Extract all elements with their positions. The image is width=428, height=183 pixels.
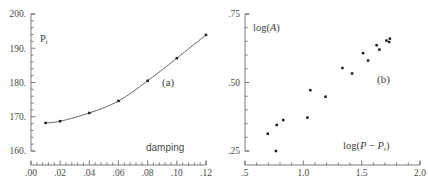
data-point-marker: [59, 120, 62, 123]
x-tick-label: .02: [54, 168, 66, 178]
data-point-marker: [388, 41, 391, 44]
data-point-marker: [375, 44, 378, 47]
y-tick-label: 180.: [9, 78, 26, 88]
data-point-marker: [117, 100, 120, 103]
panel-a-y-axis-label: Pt: [40, 34, 48, 46]
x-tick-label: 1.0: [297, 168, 309, 178]
chart-panel-a: 160.170.180.190.200..00.02.04.06.08.10.1…: [0, 0, 214, 183]
y-tick-label: 170.: [9, 112, 26, 122]
data-point-marker: [367, 59, 370, 62]
axes-group: .25.50.75.51.01.52.0: [228, 9, 426, 178]
chart-panel-b: .25.50.75.51.01.52.0 log(A) log(P − Pt) …: [214, 0, 428, 183]
panel-a-x-axis-label: damping: [146, 143, 184, 153]
data-point-marker: [385, 39, 388, 42]
panel-b-tag: (b): [377, 74, 390, 85]
y-tick-label: 190.: [9, 44, 26, 54]
y-tick-label: .75: [228, 9, 240, 19]
data-point-marker: [306, 116, 309, 119]
data-point-marker: [275, 150, 278, 153]
data-point-marker: [341, 67, 344, 70]
x-tick-label: .10: [171, 168, 183, 178]
x-tick-label: 1.5: [356, 168, 368, 178]
data-point-marker: [282, 119, 285, 122]
x-tick-label: .08: [142, 168, 154, 178]
x-tick-label: 2.0: [414, 168, 426, 178]
data-point-marker: [88, 112, 91, 115]
data-point-marker: [146, 80, 149, 83]
y-tick-label: .25: [228, 146, 240, 156]
data-point-marker: [362, 52, 365, 55]
panel-b-y-axis-label: log(A): [253, 23, 280, 34]
x-tick-label: .12: [200, 168, 212, 178]
data-series-group: [44, 34, 207, 125]
data-point-marker: [324, 96, 327, 99]
y-tick-label: .50: [228, 78, 240, 88]
y-tick-label: 200.: [9, 9, 26, 19]
data-point-marker: [351, 72, 354, 75]
data-line: [46, 35, 206, 123]
data-point-marker: [44, 122, 47, 125]
data-point-marker: [176, 57, 179, 60]
data-point-marker: [205, 34, 208, 37]
figure-container: 160.170.180.190.200..00.02.04.06.08.10.1…: [0, 0, 428, 183]
data-point-marker: [378, 48, 381, 51]
data-series-group: [267, 37, 392, 152]
y-tick-label: 160.: [9, 146, 26, 156]
data-point-marker: [275, 124, 278, 127]
x-tick-label: .00: [25, 168, 37, 178]
panel-a-plot-svg: 160.170.180.190.200..00.02.04.06.08.10.1…: [0, 0, 214, 183]
data-point-marker: [309, 89, 312, 92]
panel-b-plot-svg: .25.50.75.51.01.52.0: [214, 0, 428, 183]
data-point-marker: [267, 132, 270, 135]
x-tick-label: .04: [83, 168, 95, 178]
panel-a-tag: (a): [162, 77, 174, 88]
data-point-marker: [389, 37, 392, 40]
x-tick-label: .06: [113, 168, 125, 178]
panel-b-x-axis-label: log(P − Pt): [343, 141, 389, 153]
x-tick-label: .5: [241, 168, 248, 178]
